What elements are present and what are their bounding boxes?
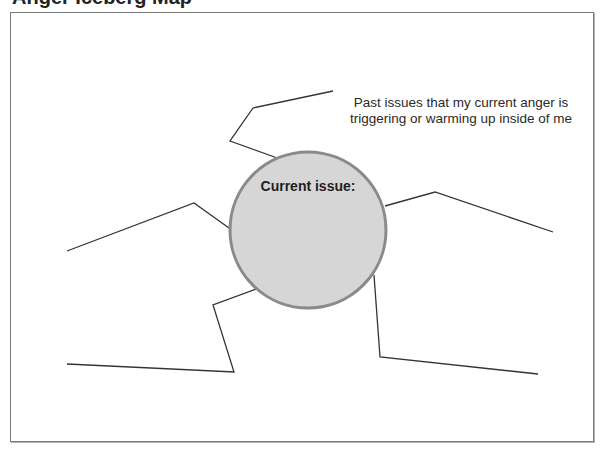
callout-line-1: Past issues that my current anger is: [336, 95, 586, 111]
branch-left: [67, 203, 229, 251]
current-issue-label: Current issue:: [250, 178, 366, 194]
callout-line-2: triggering or warming up inside of me: [336, 111, 586, 127]
past-issues-callout: Past issues that my current anger is tri…: [336, 95, 586, 127]
mind-map-diagram: [0, 0, 604, 458]
branch-top: [230, 91, 333, 159]
branch-right: [385, 192, 553, 232]
branch-bottom-left: [67, 289, 256, 372]
branch-bottom-right: [374, 275, 538, 374]
current-issue-circle: [230, 152, 386, 308]
